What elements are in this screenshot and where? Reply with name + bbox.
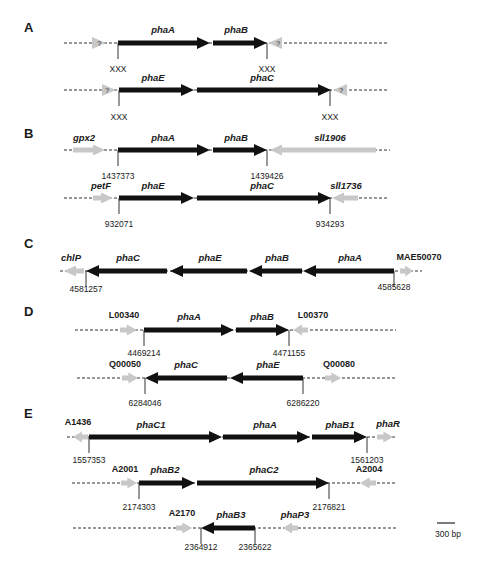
gene-petf-arrow: petF	[90, 180, 113, 204]
gene-phaa-shape	[118, 144, 210, 156]
gene-phab-arrow: phaB	[213, 24, 267, 49]
gene-a2170-arrow: A2170	[169, 508, 196, 534]
unknown-gene-label: ?	[97, 39, 101, 48]
gene-l00370-shape	[293, 325, 308, 336]
gene-phae-arrow: phaE	[119, 72, 194, 96]
coordinate-label: 6286220	[286, 398, 319, 408]
coordinate-label: 4585628	[377, 282, 410, 292]
gene-label: phaB2	[149, 464, 180, 475]
unknown-gene-arrow: ?	[92, 37, 106, 49]
gene-phae-shape	[230, 372, 303, 384]
gene-label: phaE	[140, 72, 165, 83]
gene-phab2-shape	[139, 477, 195, 489]
panel-letter: E	[24, 406, 33, 421]
gene-phab3-arrow: phaB3	[201, 509, 255, 534]
coordinate-label: 1557353	[72, 455, 105, 465]
gene-sll1736-arrow: sll1736	[330, 180, 362, 204]
gene-label: phaB	[249, 311, 274, 322]
coordinate-label: XXX	[109, 64, 126, 74]
gene-q00080-shape	[325, 373, 341, 384]
coordinate-label: 932071	[105, 219, 134, 229]
gene-phaa-shape	[144, 324, 234, 336]
gene-phac2-arrow: phaC2	[197, 464, 329, 489]
gene-sll1906-arrow: sll1906	[270, 132, 376, 156]
gene-phap3-shape	[283, 523, 298, 534]
gene-sll1736-shape	[332, 193, 358, 204]
coordinate-label: 6284046	[128, 398, 161, 408]
gene-label: phaE	[197, 252, 222, 263]
gene-phab-arrow: phaB	[213, 132, 267, 156]
gene-label: gpx2	[72, 132, 96, 143]
coordinate-label: XXX	[110, 112, 127, 122]
gene-cluster-row: A2170phaB3phaP323649122365622	[73, 508, 396, 552]
gene-phae-shape	[119, 84, 194, 96]
gene-phae-arrow: phaE	[170, 252, 247, 277]
gene-cluster-figure: A?phaAphaB?XXXXXX?phaEphaC?XXXXXXBgpx2ph…	[0, 0, 484, 565]
scale-bar-label: 300 bp	[435, 529, 461, 539]
gene-phac-arrow: phaC	[197, 180, 331, 204]
coordinate-label: 4581257	[69, 284, 102, 294]
coordinate-label: 2174303	[122, 502, 155, 512]
gene-label: phaA	[150, 132, 175, 143]
gene-phar-arrow: phaR	[375, 418, 400, 443]
gene-phab-shape	[213, 144, 267, 156]
gene-a2001-shape	[121, 478, 137, 489]
gene-phaa-arrow: phaA	[303, 252, 394, 277]
gene-label: phaA	[150, 24, 175, 35]
gene-phaa-shape	[303, 265, 394, 277]
gene-a2004-arrow: A2004	[356, 464, 383, 489]
gene-chlp-shape	[64, 266, 84, 277]
gene-label: phaB	[223, 132, 248, 143]
gene-phap3-arrow: phaP3	[280, 509, 310, 534]
gene-label: L00340	[109, 310, 140, 320]
gene-a1436-arrow: A1436	[65, 417, 92, 443]
gene-label: Q00050	[109, 359, 141, 369]
gene-phab1-arrow: phaB1	[312, 419, 367, 443]
gene-phaa-arrow: phaA	[118, 24, 210, 49]
gene-label: phaC	[115, 252, 140, 263]
gene-phab-shape	[213, 37, 267, 49]
gene-cluster-row: chlPphaCphaEphaBphaAMAE50070458125745856…	[60, 252, 442, 294]
coordinate-label: 2364912	[184, 542, 217, 552]
gene-sll1906-shape	[270, 145, 376, 156]
gene-a2004-shape	[360, 478, 376, 489]
gene-mae50070-shape	[400, 266, 413, 277]
gene-q00050-shape	[122, 373, 138, 384]
gene-cluster-row: gpx2phaAphaBsll190614373731439426	[64, 132, 390, 181]
panel-c: CchlPphaCphaEphaBphaAMAE5007045812574585…	[24, 236, 442, 294]
gene-phab3-shape	[201, 522, 255, 534]
gene-l00340-arrow: L00340	[109, 310, 140, 336]
gene-phaa-arrow: phaA	[118, 132, 210, 156]
gene-phab-arrow: phaB	[236, 311, 289, 336]
gene-label: phaB	[223, 24, 248, 35]
gene-phac1-shape	[89, 431, 222, 443]
gene-label: phaA	[176, 311, 201, 322]
gene-label: phaE	[140, 180, 165, 191]
gene-l00340-shape	[120, 325, 137, 336]
gene-a1436-shape	[73, 432, 88, 443]
gene-mae50070-arrow: MAE50070	[396, 252, 441, 277]
gene-label: phaC2	[248, 464, 279, 475]
gene-label: A2001	[112, 464, 139, 474]
panels: A?phaAphaB?XXXXXX?phaEphaC?XXXXXXBgpx2ph…	[24, 20, 442, 552]
unknown-gene-label: ?	[339, 86, 343, 95]
scale-bar: 300 bp	[435, 523, 461, 539]
gene-label: phaP3	[280, 509, 310, 520]
gene-gpx2-shape	[73, 145, 105, 156]
gene-phac-arrow: phaC	[145, 359, 227, 384]
gene-cluster-row: Q00050phaCphaEQ0008062840466286220	[77, 359, 396, 408]
gene-phab1-shape	[312, 431, 367, 443]
gene-phab-shape	[236, 324, 289, 336]
gene-phac1-arrow: phaC1	[89, 419, 222, 443]
panel-e: EA1436phaC1phaAphaB1phaR15573531561203A2…	[24, 406, 400, 552]
coordinate-label: 4469214	[127, 348, 160, 358]
gene-label: MAE50070	[396, 252, 441, 262]
panel-letter: A	[24, 20, 34, 35]
gene-phac-arrow: phaC	[197, 72, 331, 96]
gene-label: sll1736	[330, 180, 362, 191]
gene-label: phaB3	[215, 509, 246, 520]
gene-cluster-row: ?phaAphaB?XXXXXX	[64, 24, 387, 74]
gene-label: sll1906	[314, 132, 346, 143]
gene-label: phaA	[337, 252, 362, 263]
gene-label: phaR	[375, 418, 400, 429]
